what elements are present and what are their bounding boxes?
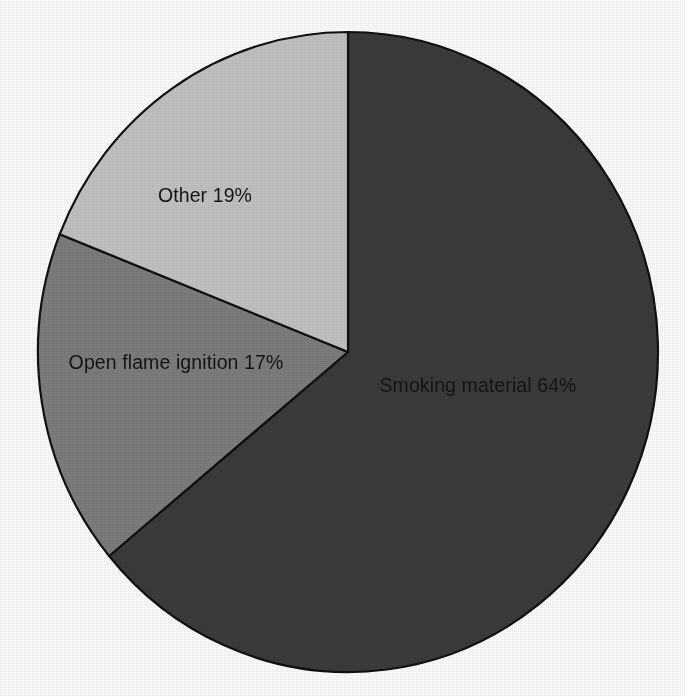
pie-chart-canvas: Smoking material 64%Open flame ignition … [0, 0, 685, 696]
pie-slice-label-smoking-material: Smoking material 64% [379, 374, 576, 396]
pie-slice-label-open-flame-ignition: Open flame ignition 17% [69, 351, 284, 373]
pie-chart: Smoking material 64%Open flame ignition … [0, 0, 685, 696]
pie-slice-label-other: Other 19% [158, 184, 252, 206]
